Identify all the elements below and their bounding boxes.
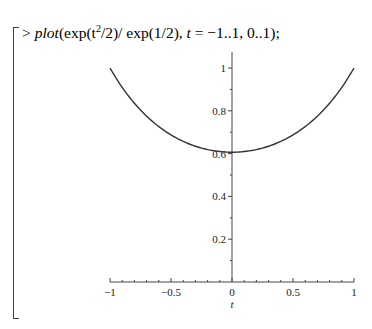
x-tick-label: 1 — [351, 286, 357, 298]
x-axis-label: t — [230, 298, 234, 310]
x-tick-label: 0.5 — [286, 286, 300, 298]
y-tick-label: 0.2 — [212, 233, 226, 245]
x-tick-label: −1 — [104, 286, 116, 298]
x-tick-label: 0 — [229, 286, 235, 298]
y-tick-label: 0.8 — [212, 105, 226, 117]
y-tick-label: 0.6 — [212, 148, 226, 160]
plot-area[interactable]: −1−0.500.510.20.40.60.81t — [0, 0, 372, 329]
x-tick-label: −0.5 — [161, 286, 181, 298]
y-tick-label: 1 — [221, 62, 227, 74]
y-tick-label: 0.4 — [212, 190, 226, 202]
